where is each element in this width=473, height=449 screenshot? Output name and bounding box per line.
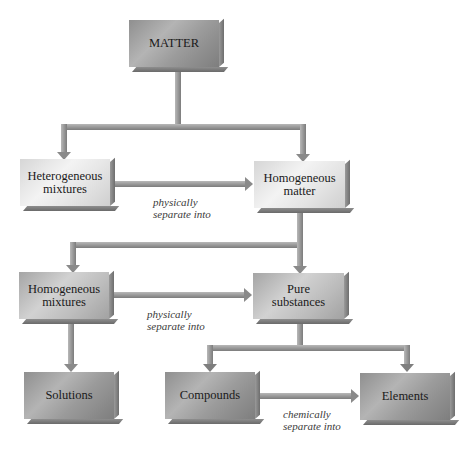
homogeneous-matter-branch-connector — [66, 211, 307, 274]
matter-branch-connector — [57, 70, 310, 162]
mixtures-to-solutions-connector — [64, 322, 78, 372]
node-homogeneous-mixtures-line2: mixtures — [42, 295, 86, 309]
node-heterogeneous-mixtures: Heterogeneous mixtures — [20, 159, 115, 211]
node-compounds-label: Compounds — [180, 389, 240, 402]
node-pure-substances-line1: Pure — [287, 282, 310, 296]
hetero-to-homo-arrow — [113, 177, 253, 191]
node-homogeneous-matter-line1: Homogeneous — [263, 171, 335, 185]
edge-label-compounds-to-elements: chemically separate into — [283, 409, 341, 432]
node-homogeneous-mixtures-line1: Homogeneous — [28, 282, 100, 296]
node-heterogeneous-mixtures-line2: mixtures — [43, 182, 87, 196]
node-homogeneous-mixtures: Homogeneous mixtures — [19, 272, 114, 324]
node-homogeneous-matter-line2: matter — [284, 184, 316, 198]
mixtures-to-pure-arrow — [112, 288, 252, 302]
node-solutions: Solutions — [24, 372, 119, 424]
node-solutions-label: Solutions — [45, 389, 92, 402]
node-elements: Elements — [360, 373, 455, 425]
node-matter-label: MATTER — [149, 37, 199, 50]
node-heterogeneous-mixtures-line1: Heterogeneous — [28, 169, 103, 183]
node-pure-substances: Pure substances — [253, 273, 349, 324]
compounds-to-elements-arrow — [258, 389, 359, 403]
edge-label-hetero-to-homo: physically separate into — [153, 197, 211, 220]
node-compounds: Compounds — [165, 372, 260, 424]
pure-substances-branch-connector — [203, 322, 414, 372]
edge-label-mixtures-to-pure: physically separate into — [147, 309, 205, 332]
node-homogeneous-matter: Homogeneous matter — [254, 161, 350, 213]
node-elements-label: Elements — [382, 390, 429, 403]
node-matter: MATTER — [129, 20, 224, 72]
node-pure-substances-line2: substances — [272, 295, 325, 309]
